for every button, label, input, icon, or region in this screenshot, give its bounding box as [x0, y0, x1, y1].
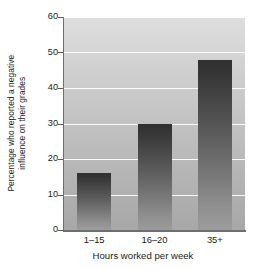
y-axis-title: Percentage who reported a negative influ… [0, 0, 34, 247]
bar [198, 60, 232, 230]
y-axis-tick-label: 60 [34, 12, 58, 21]
x-axis-tick-labels: 1–1516–2035+ [64, 234, 245, 248]
y-axis-tick-label: 30 [34, 119, 58, 128]
gridline [64, 52, 245, 53]
y-axis-line [63, 17, 64, 231]
bar [77, 173, 111, 230]
y-axis-tick-labels: 0102030405060 [34, 0, 58, 269]
y-axis-tick-label: 40 [34, 83, 58, 92]
x-axis-tick-label: 1–15 [84, 234, 105, 246]
x-axis-line [63, 230, 246, 232]
y-axis-title-line-2: influence on their grades [17, 55, 28, 192]
x-axis-title: Hours worked per week [40, 250, 246, 262]
y-axis-tick-label: 50 [34, 48, 58, 57]
x-axis-tick-label: 35+ [207, 234, 223, 246]
y-axis-tick-label: 0 [34, 225, 58, 234]
gridline [64, 17, 245, 18]
y-axis-tick-label: 10 [34, 190, 58, 199]
bar-chart-figure: Percentage who reported a negative influ… [0, 0, 256, 269]
y-axis-title-line-1: Percentage who reported a negative [6, 55, 17, 192]
x-axis-tick-label: 16–20 [141, 234, 167, 246]
plot-area [64, 17, 245, 230]
y-axis-tick-label: 20 [34, 154, 58, 163]
bar [138, 124, 172, 230]
